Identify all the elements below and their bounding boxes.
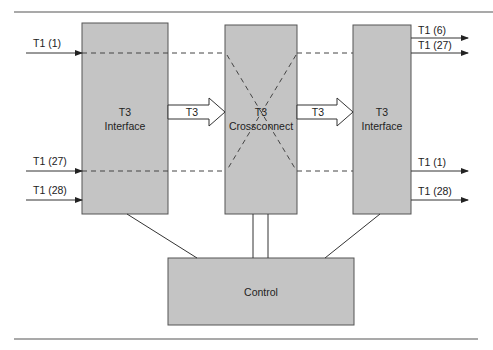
left-interface-label-line1: T3 (119, 106, 131, 118)
crossconnect-label-line1: T3 (255, 106, 267, 118)
output-label-t1-6: T1 (6) (418, 24, 446, 36)
output-label-t1-1: T1 (1) (418, 156, 446, 168)
control-link-right (325, 214, 380, 258)
output-label-t1-28: T1 (28) (418, 185, 452, 197)
crossconnect-diagram: T3 Interface T3 Crossconnect T3 Interfac… (0, 0, 493, 350)
t3-link-label-left: T3 (186, 106, 198, 118)
t3-link-label-right: T3 (312, 106, 324, 118)
control-label: Control (244, 286, 278, 298)
right-interface-label-line1: T3 (376, 106, 388, 118)
t3-link-arrow-right (297, 98, 353, 126)
left-t3-interface-box (82, 23, 168, 214)
control-link-left (127, 214, 197, 258)
crossconnect-label-line2: Crossconnect (229, 120, 293, 132)
right-interface-label-line2: Interface (362, 120, 403, 132)
left-interface-label-line2: Interface (105, 120, 146, 132)
input-label-t1-27: T1 (27) (33, 155, 67, 167)
output-label-t1-27: T1 (27) (418, 39, 452, 51)
input-label-t1-1: T1 (1) (33, 37, 61, 49)
input-label-t1-28: T1 (28) (33, 184, 67, 196)
